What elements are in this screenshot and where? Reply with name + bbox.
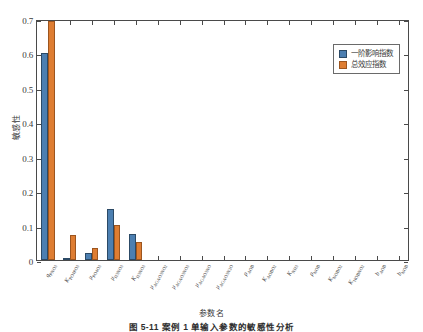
x-tick-label-u_H3NO3: μH3NO3 (107, 262, 124, 282)
x-tick-label-K_NOBO2: KNOBO2 (326, 262, 344, 284)
x-tick-mark-bottom (399, 256, 400, 260)
y-tick-mark-right (404, 228, 408, 229)
bar-K_PO4PO3-total-effect (70, 235, 77, 260)
y-tick-label: 0.6 (22, 51, 33, 60)
x-tick-mark-top (355, 21, 356, 25)
y-tick-mark-right (404, 124, 408, 125)
x-tick-mark-top (158, 21, 159, 25)
x-tick-label-b_NOB: bNOB (395, 262, 410, 278)
x-tick-mark-top (333, 21, 334, 25)
x-tick-mark-bottom (267, 256, 268, 260)
x-tick-label-u_AGAO3NO: μAGAO3NO (192, 262, 213, 289)
x-tick-mark-top (114, 21, 115, 25)
bar-q_PNO3-total-effect (48, 21, 55, 260)
y-axis-title: 敏感性 (10, 115, 21, 141)
legend: 一阶影响指数 总效应指数 (333, 44, 400, 74)
x-tick-label-K_NH3: KNH3 (285, 262, 300, 278)
x-axis-title: 参数名 (0, 307, 423, 318)
legend-label-total-effect: 总效应指数 (351, 60, 386, 69)
legend-label-first-order: 一阶影响指数 (351, 49, 393, 58)
x-tick-mark-bottom (355, 256, 356, 260)
x-tick-mark-top (289, 21, 290, 25)
x-tick-mark-top (377, 21, 378, 25)
bar-K_H3NO3-first-order (129, 234, 136, 261)
y-tick-label: 0.7 (22, 17, 33, 26)
y-tick-label: 0.4 (22, 120, 33, 129)
bar-u_PO4O3-total-effect (92, 248, 99, 260)
x-tick-mark-top (311, 21, 312, 25)
x-tick-label-u_AGAO3N2O: μAGAO3N2O (213, 262, 235, 291)
y-tick-label: 0.5 (22, 85, 33, 94)
y-tick-mark-right (404, 193, 408, 194)
y-tick-mark-right (404, 21, 408, 22)
x-tick-mark-bottom (311, 256, 312, 260)
y-tick-label: 0.3 (22, 154, 33, 163)
y-tick-mark-right (404, 55, 408, 56)
x-tick-mark-top (136, 21, 137, 25)
x-tick-mark-top (267, 21, 268, 25)
x-tick-mark-bottom (202, 256, 203, 260)
legend-entry-total-effect: 总效应指数 (338, 59, 393, 70)
x-tick-label-K_PO4PO3: KPO4PO3 (62, 262, 81, 285)
x-tick-mark-bottom (224, 256, 225, 260)
x-tick-mark-bottom (377, 256, 378, 260)
x-tick-mark-bottom (158, 256, 159, 260)
plot-area: 00.10.20.30.40.50.60.7 一阶影响指数 总效应指数 (36, 20, 409, 261)
legend-entry-first-order: 一阶影响指数 (338, 48, 393, 59)
y-tick-mark-right (404, 90, 408, 91)
x-tick-label-u_PO4O3: μPO4O3 (86, 262, 103, 282)
figure-caption: 图 5-11 案例 1 单输入参数的敏感性分析 (0, 320, 423, 332)
x-tick-label-p_AO8: ρAOB (241, 262, 256, 278)
legend-swatch-first-order (339, 50, 347, 58)
x-tick-mark-top (202, 21, 203, 25)
x-tick-mark-top (399, 21, 400, 25)
y-tick-label: 0.2 (22, 189, 33, 198)
x-tick-label-K_AOBO2: KAOBO2 (260, 262, 278, 284)
x-tick-label-K_H3NO3: KH3NO3 (129, 262, 147, 283)
x-tick-mark-bottom (333, 256, 334, 260)
bar-u_H3NO3-total-effect (114, 225, 121, 260)
x-tick-label-K_NOBNO2: KNOBNO2 (346, 262, 366, 287)
y-tick-label: 0.1 (22, 223, 33, 232)
x-axis-tick-labels: qPNO3KPO4PO3μPO4O3μH3NO3KH3NO3μAGAO3NO2μ… (36, 262, 409, 306)
x-tick-label-q_PNO3: qPNO3 (43, 262, 59, 280)
y-tick-mark (37, 21, 41, 22)
x-tick-label-b_AOB: bAOB (373, 262, 388, 278)
x-tick-label-u_AGAO3NO3: μAGAO3NO3 (169, 262, 191, 291)
y-tick-mark-right (404, 159, 408, 160)
x-tick-mark-top (224, 21, 225, 25)
x-tick-mark-bottom (180, 256, 181, 260)
bar-q_PNO3-first-order (41, 53, 48, 260)
x-tick-mark-top (92, 21, 93, 25)
bar-u_PO4O3-first-order (85, 253, 92, 260)
x-tick-mark-bottom (289, 256, 290, 260)
y-tick-label: 0 (29, 258, 33, 267)
bar-K_PO4PO3-first-order (63, 258, 70, 260)
x-tick-label-p_NOB: ρNOB (307, 262, 322, 278)
x-tick-mark-bottom (245, 256, 246, 260)
x-tick-label-u_AGAO3NO2: μAGAO3NO2 (147, 262, 169, 291)
legend-swatch-total-effect (339, 61, 347, 69)
bar-u_H3NO3-first-order (107, 209, 114, 260)
x-tick-mark-top (245, 21, 246, 25)
bar-K_H3NO3-total-effect (136, 242, 143, 260)
x-tick-mark-top (180, 21, 181, 25)
x-tick-mark-top (70, 21, 71, 25)
